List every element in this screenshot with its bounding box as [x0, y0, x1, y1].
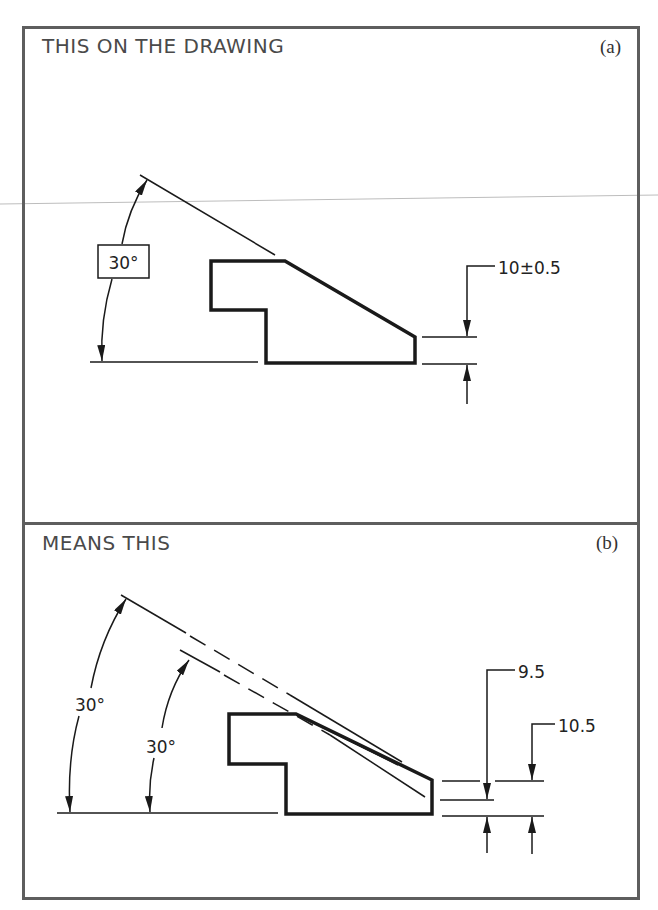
outer-angle-arc-upper: [91, 599, 126, 688]
leader-line-min: [487, 670, 515, 799]
outer-angle-dimension: 30°: [75, 695, 105, 715]
inner-angle-arc-upper: [162, 660, 189, 728]
linear-dimension-a: 10±0.5: [498, 258, 561, 278]
inner-angle-line-dashed: [224, 675, 330, 735]
leader-line-a: [467, 266, 495, 336]
inner-angle-arc-lower: [150, 758, 155, 812]
min-dimension: 9.5: [518, 662, 545, 682]
outer-angle-line-solid: [121, 595, 186, 633]
outer-angle-arc-lower: [69, 716, 79, 812]
angle-extension-line: [140, 175, 275, 255]
panel-b-drawing: 30° 30° 9.5 10.5: [57, 595, 596, 854]
panel-a-drawing: 30° 10±0.5: [90, 175, 561, 404]
outer-angle-line-dashed: [190, 636, 290, 695]
part-outline-a: [211, 261, 415, 363]
inner-angle-dimension: 30°: [146, 737, 176, 757]
inner-angle-line-solid: [180, 650, 220, 672]
max-dimension: 10.5: [558, 716, 596, 736]
angle-dimension-a: 30°: [108, 253, 138, 273]
part-outline-b: [229, 714, 432, 814]
angle-arc-lower: [102, 279, 112, 361]
leader-line-max: [532, 724, 555, 780]
angle-arc-upper: [122, 180, 147, 244]
